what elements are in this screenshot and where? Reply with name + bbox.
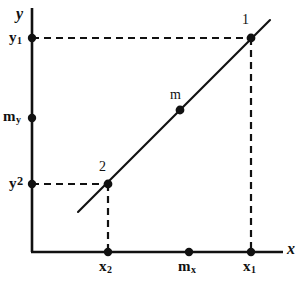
x-tick-mx-sub: x [191,264,196,275]
marker-my [28,114,36,122]
marker-y1 [28,34,36,42]
y-tick-y2-base: y [9,175,17,191]
x-tick-x1-base: x [243,258,251,274]
point-2-label: 2 [99,160,106,174]
marker-y2 [28,180,36,188]
y-tick-label-my: my [3,109,21,125]
x-tick-x2-sub: 2 [107,264,112,275]
y-tick-y2-sub: 2 [17,174,23,188]
marker-x1 [247,248,255,256]
x-tick-x1-sub: 1 [251,264,256,275]
y-tick-my-base: m [3,108,16,124]
x-axis-label: x [287,241,295,257]
x-tick-label-x2: x2 [99,259,112,275]
x-tick-x2-base: x [99,258,107,274]
marker-x2 [104,248,112,256]
y-tick-y1-base: y [9,29,17,45]
y-tick-y1-sub: 1 [17,35,22,46]
y-tick-label-y2: y2 [9,175,23,191]
y-tick-label-y1: y1 [9,30,22,46]
point-m-marker [176,106,185,115]
y-tick-my-sub: y [16,114,21,125]
point-1-label: 1 [242,13,249,27]
x-tick-mx-base: m [178,258,191,274]
figure-canvas [0,0,304,283]
figure-container: y x y1 my y2 x2 mx x1 1 m 2 [0,0,304,283]
point-2-marker [104,180,113,189]
point-1-marker [247,34,256,43]
x-tick-label-x1: x1 [243,259,256,275]
x-tick-label-mx: mx [178,259,196,275]
point-m-label: m [170,88,181,102]
marker-mx [185,248,193,256]
y-axis-label: y [16,6,23,22]
